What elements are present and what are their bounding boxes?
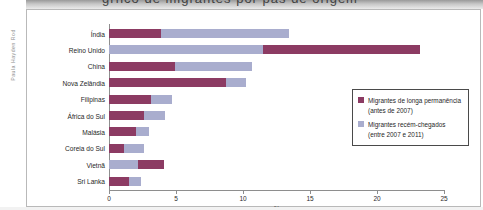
bar-segment-new-arrivals[interactable]: [161, 29, 288, 38]
chart-row: Vietnã: [109, 157, 444, 172]
cropped-title-text: grfico de migrantes por pas de origem: [26, 0, 483, 6]
x-tick-label: 5: [174, 195, 178, 202]
category-label: Coreia do Sul: [65, 145, 105, 152]
bar-segment-long-stay[interactable]: [109, 78, 226, 87]
bar-segment-new-arrivals[interactable]: [144, 111, 165, 120]
bar-segment-long-stay[interactable]: [109, 127, 136, 136]
legend-item-long: Migrantes de longa permanência (antes de…: [358, 96, 463, 115]
x-tick-label: 15: [306, 195, 313, 202]
chart-row: Índia: [109, 26, 444, 41]
bar-segment-long-stay[interactable]: [138, 160, 163, 169]
stacked-bar[interactable]: [109, 144, 144, 153]
category-label: China: [88, 63, 105, 70]
chart-row: Reino Unido: [109, 42, 444, 57]
x-axis-line: [109, 190, 445, 191]
bar-segment-new-arrivals[interactable]: [136, 127, 149, 136]
x-tick-label: 20: [373, 195, 380, 202]
cropped-title-strip: grfico de migrantes por pas de origem: [26, 0, 483, 9]
category-label: Sri Lanka: [77, 178, 105, 185]
chart-row: Sri Lanka: [109, 174, 444, 189]
x-tick-mark: [377, 190, 378, 194]
bar-segment-long-stay[interactable]: [263, 45, 420, 54]
stacked-bar[interactable]: [109, 78, 246, 87]
bar-segment-long-stay[interactable]: [109, 144, 124, 153]
x-tick-label: 10: [239, 195, 246, 202]
bar-segment-new-arrivals[interactable]: [124, 144, 144, 153]
category-label: Malásia: [82, 128, 105, 135]
stacked-bar[interactable]: [109, 177, 141, 186]
category-label: Vietnã: [86, 161, 105, 168]
category-label: Índia: [91, 30, 105, 37]
bar-segment-new-arrivals[interactable]: [226, 78, 246, 87]
photo-credit: Paula Hayden Rod: [10, 20, 16, 90]
bar-segment-long-stay[interactable]: [109, 62, 175, 71]
x-tick-mark: [310, 190, 311, 194]
bar-segment-new-arrivals[interactable]: [109, 45, 263, 54]
bar-segment-new-arrivals[interactable]: [129, 177, 141, 186]
legend-item-new: Migrantes recém-chegados (entre 2007 e 2…: [358, 120, 463, 139]
x-tick-mark: [243, 190, 244, 194]
stacked-bar[interactable]: [109, 127, 149, 136]
legend-swatch-long-stay-icon: [358, 97, 364, 103]
stacked-bar[interactable]: [109, 95, 172, 104]
scan-edge: [0, 207, 483, 210]
chart-row: China: [109, 59, 444, 74]
stacked-bar[interactable]: [109, 62, 252, 71]
x-tick-label: 25: [440, 195, 447, 202]
chart-frame: 0510152025 % ÍndiaReino UnidoChinaNova Z…: [26, 9, 481, 207]
legend-swatch-new-arrivals-icon: [358, 121, 364, 127]
stacked-bar[interactable]: [109, 111, 165, 120]
stacked-bar[interactable]: [109, 160, 164, 169]
category-label: África do Sul: [68, 112, 105, 119]
figure-page: grfico de migrantes por pas de origem Pa…: [0, 0, 483, 210]
category-label: Nova Zelândia: [62, 79, 105, 86]
x-tick-mark: [444, 190, 445, 194]
legend-label-long-stay: Migrantes de longa permanência (antes de…: [368, 96, 463, 115]
x-tick-mark: [109, 190, 110, 194]
legend-label-new-arrivals: Migrantes recém-chegados (entre 2007 e 2…: [368, 120, 463, 139]
x-tick-mark: [176, 190, 177, 194]
bar-segment-long-stay[interactable]: [109, 95, 151, 104]
bar-segment-long-stay[interactable]: [109, 111, 144, 120]
bar-segment-new-arrivals[interactable]: [151, 95, 172, 104]
bar-segment-long-stay[interactable]: [109, 177, 129, 186]
stacked-bar[interactable]: [109, 29, 289, 38]
category-label: Filipinas: [81, 96, 105, 103]
stacked-bar[interactable]: [109, 45, 420, 54]
category-label: Reino Unido: [69, 46, 105, 53]
chart-legend: Migrantes de longa permanência (antes de…: [352, 89, 469, 146]
chart-row: Nova Zelândia: [109, 75, 444, 90]
bar-segment-new-arrivals[interactable]: [109, 160, 138, 169]
bar-segment-new-arrivals[interactable]: [175, 62, 253, 71]
bar-segment-long-stay[interactable]: [109, 29, 161, 38]
x-tick-label: 0: [107, 195, 111, 202]
